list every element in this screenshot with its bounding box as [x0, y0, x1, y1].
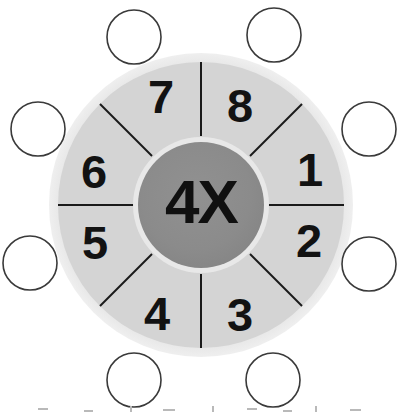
scan-artifact — [163, 409, 175, 411]
scan-artifact — [283, 410, 292, 412]
answer-circle-left-lower[interactable] — [3, 236, 57, 290]
scan-artifact — [315, 406, 317, 412]
scan-artifact — [247, 408, 257, 410]
scan-artifact — [130, 406, 132, 412]
hub-operation-label: 4X — [165, 167, 238, 236]
sector-number-3: 3 — [227, 288, 253, 341]
sector-number-1: 1 — [297, 143, 323, 196]
scan-artifact — [38, 408, 48, 410]
sector-number-8: 8 — [227, 79, 253, 132]
scan-artifact — [350, 409, 361, 411]
multiplication-wheel: 4X 1 2 3 4 5 6 7 8 — [0, 0, 405, 416]
answer-circle-right-upper[interactable] — [342, 102, 396, 156]
answer-circle-top-right[interactable] — [247, 8, 301, 62]
answer-circle-bottom-left[interactable] — [107, 353, 161, 407]
sector-number-5: 5 — [82, 216, 108, 269]
sector-number-2: 2 — [296, 214, 322, 267]
sector-number-6: 6 — [81, 145, 107, 198]
answer-circle-top-left[interactable] — [107, 10, 161, 64]
sector-number-4: 4 — [144, 287, 170, 340]
worksheet-canvas: 4X 1 2 3 4 5 6 7 8 — [0, 0, 405, 416]
sector-number-7: 7 — [148, 70, 174, 123]
answer-circle-bottom-right[interactable] — [246, 353, 300, 407]
scan-artifact — [84, 410, 93, 412]
scan-artifact-group — [38, 406, 361, 412]
scan-artifact — [212, 406, 214, 412]
answer-circle-left-upper[interactable] — [11, 102, 65, 156]
answer-circle-right-lower[interactable] — [342, 237, 396, 291]
